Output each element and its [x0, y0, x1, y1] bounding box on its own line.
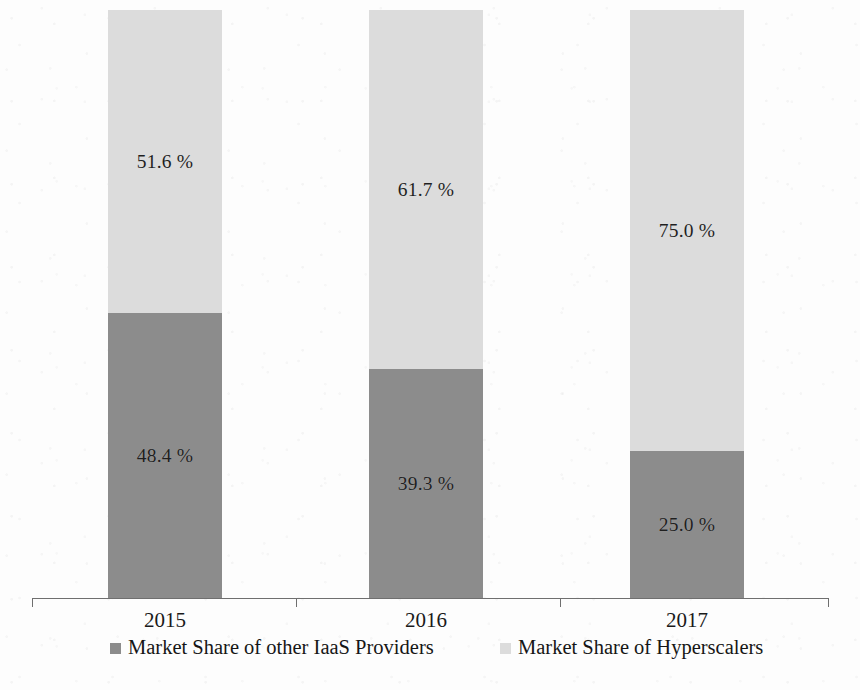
bar-segment-hyperscalers-2016[interactable]: 61.7 % [369, 10, 483, 369]
x-axis-tick [296, 598, 297, 607]
x-axis-tick [32, 598, 33, 607]
bar-segment-hyperscalers-2017[interactable]: 75.0 % [630, 10, 744, 451]
bar-value-label: 39.3 % [398, 473, 454, 495]
bar-group-2015: 51.6 % 48.4 % [108, 10, 222, 598]
legend-item-hyperscalers[interactable]: Market Share of Hyperscalers [500, 636, 763, 659]
x-axis-tick [560, 598, 561, 607]
bar-value-label: 61.7 % [398, 179, 454, 201]
bar-segment-hyperscalers-2015[interactable]: 51.6 % [108, 10, 222, 313]
bar-value-label: 75.0 % [659, 220, 715, 242]
bar-segment-other-iaas-2017[interactable]: 25.0 % [630, 451, 744, 598]
x-axis-line [32, 598, 828, 599]
bar-segment-other-iaas-2016[interactable]: 39.3 % [369, 369, 483, 598]
chart-legend: Market Share of other IaaS Providers Mar… [0, 636, 860, 666]
legend-swatch-icon [500, 643, 511, 654]
bar-group-2016: 61.7 % 39.3 % [369, 10, 483, 598]
legend-swatch-icon [110, 643, 121, 654]
bar-value-label: 25.0 % [659, 514, 715, 536]
bar-value-label: 51.6 % [137, 151, 193, 173]
bar-value-label: 48.4 % [137, 445, 193, 467]
x-axis-tick [828, 598, 829, 607]
x-axis-label-2015: 2015 [85, 608, 245, 633]
bar-segment-other-iaas-2015[interactable]: 48.4 % [108, 313, 222, 598]
x-axis-label-2017: 2017 [607, 608, 767, 633]
bar-group-2017: 75.0 % 25.0 % [630, 10, 744, 598]
stacked-bar-chart: 51.6 % 48.4 % 61.7 % 39.3 % 75.0 % 25.0 … [0, 0, 860, 690]
legend-label: Market Share of Hyperscalers [518, 636, 763, 659]
legend-item-other-iaas-providers[interactable]: Market Share of other IaaS Providers [110, 636, 434, 659]
legend-label: Market Share of other IaaS Providers [128, 636, 434, 659]
x-axis-label-2016: 2016 [346, 608, 506, 633]
plot-area: 51.6 % 48.4 % 61.7 % 39.3 % 75.0 % 25.0 … [0, 0, 860, 598]
